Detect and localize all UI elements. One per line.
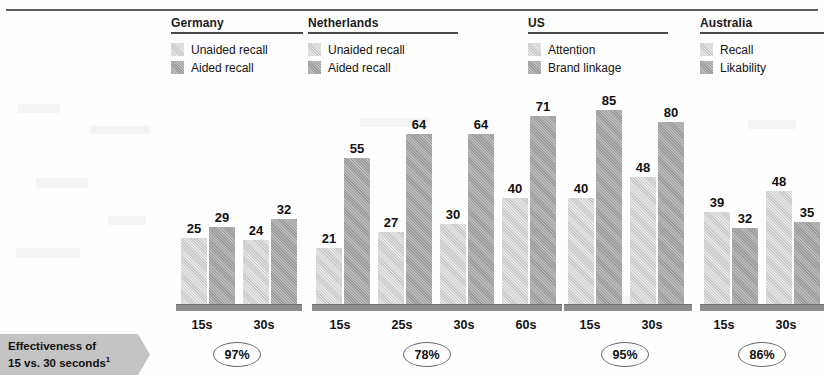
plot-australia: 39 32 48 35 — [696, 190, 822, 304]
bar: 29 — [209, 227, 235, 304]
panel-rule-australia — [700, 32, 824, 34]
baseline-germany — [176, 304, 302, 311]
bar: 85 — [596, 110, 622, 304]
legend-swatch-dark-icon — [700, 61, 713, 74]
bar-value: 29 — [215, 210, 229, 225]
legend-label: Aided recall — [191, 61, 254, 75]
tick-label: 25s — [378, 318, 426, 332]
bar-value: 64 — [474, 117, 488, 132]
plot-us: 40 85 48 80 — [560, 110, 690, 304]
bar-value: 25 — [187, 221, 201, 236]
legend-swatch-dark-icon — [528, 61, 541, 74]
legend-netherlands: Unaided recall Aided recall — [308, 41, 458, 76]
bar: 48 — [630, 177, 656, 304]
panel-netherlands: Netherlands Unaided recall Aided recall — [308, 16, 458, 77]
panel-title-netherlands: Netherlands — [308, 16, 458, 30]
legend-label: Brand linkage — [548, 61, 621, 75]
effectiveness-badge-netherlands: 78% — [403, 342, 451, 367]
legend-item: Likability — [700, 59, 824, 76]
bar: 32 — [271, 219, 297, 304]
legend-label: Unaided recall — [328, 43, 405, 57]
callout-line-2-text: 15 vs. 30 seconds — [8, 357, 106, 369]
bar: 48 — [766, 191, 792, 304]
effectiveness-badge-germany: 97% — [213, 342, 261, 367]
bar: 30 — [440, 224, 466, 304]
callout-line-1: Effectiveness of — [8, 339, 150, 353]
legend-label: Unaided recall — [191, 43, 268, 57]
bar: 80 — [658, 122, 684, 304]
bar-value: 40 — [508, 181, 522, 196]
panel-rule-germany — [171, 32, 303, 34]
legend-item: Aided recall — [308, 59, 458, 76]
callout-footnote-marker: 1 — [106, 355, 110, 364]
bar-value: 40 — [574, 181, 588, 196]
tick-label: 15s — [316, 318, 364, 332]
legend-us: Attention Brand linkage — [528, 41, 668, 76]
baseline-us — [564, 304, 692, 311]
bar-value: 55 — [350, 141, 364, 156]
bar: 39 — [704, 212, 730, 304]
bar: 71 — [530, 116, 556, 304]
legend-swatch-light-icon — [308, 43, 321, 56]
callout-line-2: 15 vs. 30 seconds1 — [8, 353, 150, 370]
header-rule — [6, 9, 818, 11]
tick-label: 30s — [240, 318, 288, 332]
bar: 55 — [344, 158, 370, 304]
legend-label: Recall — [720, 43, 753, 57]
bar-value: 80 — [664, 105, 678, 120]
bar-value: 64 — [412, 117, 426, 132]
legend-label: Attention — [548, 43, 595, 57]
effectiveness-callout: Effectiveness of 15 vs. 30 seconds1 — [0, 334, 150, 375]
bar-value: 24 — [249, 223, 263, 238]
legend-item: Brand linkage — [528, 59, 668, 76]
effectiveness-value: 95% — [612, 348, 637, 362]
legend-swatch-light-icon — [700, 43, 713, 56]
bar-value: 32 — [277, 202, 291, 217]
panel-rule-us — [528, 32, 668, 34]
effectiveness-value: 97% — [224, 348, 249, 362]
panel-us: US Attention Brand linkage — [528, 16, 668, 77]
baseline-australia — [700, 304, 824, 311]
panel-title-us: US — [528, 16, 668, 30]
bar-value: 21 — [322, 231, 336, 246]
bar-value: 35 — [800, 205, 814, 220]
bar-value: 48 — [772, 174, 786, 189]
bar: 40 — [568, 198, 594, 304]
panel-rule-netherlands — [308, 32, 458, 34]
bar: 27 — [378, 232, 404, 304]
effectiveness-value: 78% — [414, 348, 439, 362]
legend-label: Aided recall — [328, 61, 391, 75]
bar-value: 39 — [710, 195, 724, 210]
bar-value: 32 — [738, 211, 752, 226]
chart-page: Germany Unaided recall Aided recall 25 2… — [0, 0, 824, 375]
bar: 21 — [316, 248, 342, 304]
effectiveness-badge-australia: 86% — [738, 342, 786, 367]
bar-value: 27 — [384, 215, 398, 230]
tick-label: 30s — [440, 318, 488, 332]
baseline-netherlands — [312, 304, 562, 311]
tick-label: 60s — [502, 318, 550, 332]
bar: 64 — [406, 134, 432, 304]
legend-swatch-dark-icon — [171, 61, 184, 74]
effectiveness-value: 86% — [749, 348, 774, 362]
legend-australia: Recall Likability — [700, 41, 824, 76]
tick-label: 30s — [762, 318, 810, 332]
legend-swatch-light-icon — [171, 43, 184, 56]
panel-title-germany: Germany — [171, 16, 303, 30]
bar: 64 — [468, 134, 494, 304]
legend-item: Recall — [700, 41, 824, 58]
panel-title-australia: Australia — [700, 16, 824, 30]
legend-item: Unaided recall — [308, 41, 458, 58]
legend-swatch-dark-icon — [308, 61, 321, 74]
tick-label: 15s — [178, 318, 226, 332]
panel-australia: Australia Recall Likability — [700, 16, 824, 77]
tick-label: 15s — [700, 318, 748, 332]
bar-value: 30 — [446, 207, 460, 222]
bar-value: 71 — [536, 99, 550, 114]
legend-item: Unaided recall — [171, 41, 303, 58]
legend-label: Likability — [720, 61, 766, 75]
plot-germany: 25 29 24 32 — [171, 130, 303, 304]
bar: 24 — [243, 240, 269, 304]
bar: 25 — [181, 238, 207, 304]
tick-label: 30s — [628, 318, 676, 332]
